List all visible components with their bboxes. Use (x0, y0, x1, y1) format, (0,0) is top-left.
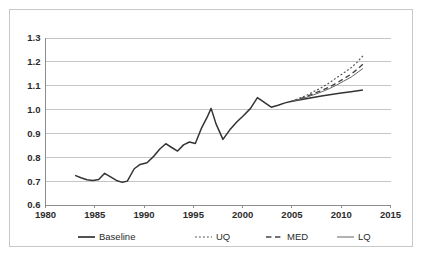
x-tick-label-2015: 2015 (380, 209, 402, 220)
y-tick-label-1.2: 1.2 (27, 56, 40, 67)
y-tick-label-1: 1.0 (27, 104, 40, 115)
data-series (75, 56, 363, 182)
legend-label-uq: UQ (216, 231, 230, 242)
y-tick-label-0.7: 0.7 (27, 176, 40, 187)
legend-label-med: MED (287, 231, 308, 242)
legend-label-lq: LQ (358, 231, 371, 242)
y-tick-label-0.8: 0.8 (27, 152, 40, 163)
x-tick-label-1985: 1985 (84, 209, 106, 220)
chart-legend: BaselineUQMEDLQ (78, 231, 371, 242)
x-tick-label-2010: 2010 (331, 209, 352, 220)
x-tick-label-1980: 1980 (35, 209, 56, 220)
x-tick-label-2005: 2005 (281, 209, 303, 220)
y-tick-label-1.1: 1.1 (27, 80, 41, 91)
x-axis-tick-labels: 19801985199019952000200520102015 (35, 209, 402, 220)
y-axis-tick-labels: 0.60.70.80.91.01.11.21.3 (27, 32, 41, 210)
x-tick-label-1995: 1995 (183, 209, 205, 220)
series-line-baseline (75, 90, 363, 182)
x-tick-label-1990: 1990 (134, 209, 155, 220)
axis-lines (46, 38, 391, 208)
legend-label-baseline: Baseline (99, 231, 135, 242)
y-tick-label-1.3: 1.3 (27, 32, 40, 43)
line-chart-plot: 0.60.70.80.91.01.11.21.3 198019851990199… (0, 0, 433, 263)
y-tick-label-0.9: 0.9 (27, 128, 40, 139)
series-line-lq (292, 69, 363, 102)
x-tick-label-2000: 2000 (232, 209, 253, 220)
chart-figure: 0.60.70.80.91.01.11.21.3 198019851990199… (0, 0, 433, 263)
